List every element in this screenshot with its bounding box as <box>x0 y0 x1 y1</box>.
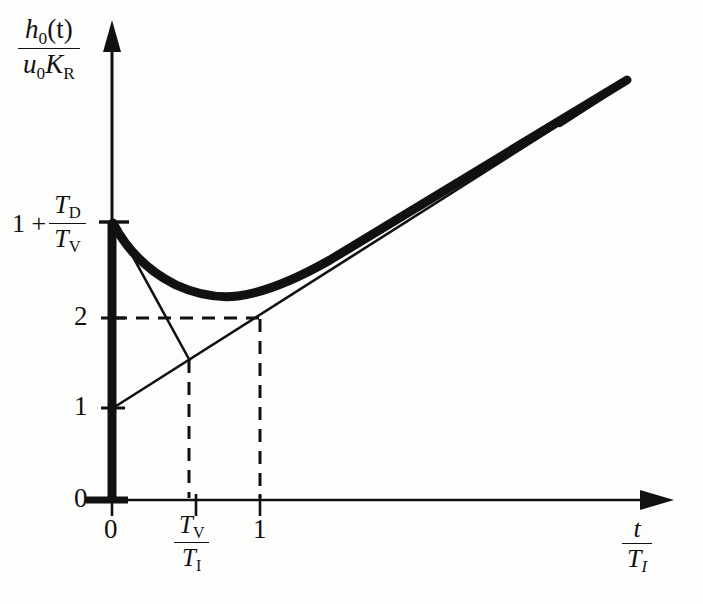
y-tick-label-top-den-T: T <box>54 224 68 253</box>
x-axis-label-numerator: t <box>622 516 652 544</box>
y-axis-label-numerator: h0(t) <box>18 16 80 49</box>
x-axis-label: t TI <box>622 516 652 576</box>
y-axis-label-h: h <box>25 14 39 44</box>
x-tick-label-tv-den-T: T <box>182 544 196 571</box>
y-tick-label-top-num-sub: D <box>69 203 81 222</box>
y-tick-label-top-leadin: 1 + <box>12 211 49 237</box>
x-axis-label-den-T: T <box>627 544 641 573</box>
y-tick-label-top-num-T: T <box>54 190 68 219</box>
y-tick-label-2: 2 <box>74 303 88 330</box>
figure-canvas: h0(t) u0KR 1 + TD TV 2 1 0 0 TV TI 1 t T… <box>0 0 703 604</box>
y-tick-label-top: 1 + TD TV <box>12 192 86 256</box>
x-axis-arrowhead <box>640 490 674 510</box>
x-tick-label-tv-den-sub: I <box>196 557 201 574</box>
y-axis-label-k: K <box>45 49 63 79</box>
y-axis-arrowhead <box>103 20 121 52</box>
y-tick-label-top-denominator: TV <box>49 224 85 256</box>
axis-lines <box>85 20 674 510</box>
x-tick-label-tv-num-T: T <box>179 511 193 538</box>
x-tick-label-tv-numerator: TV <box>174 512 209 543</box>
y-tick-label-top-numerator: TD <box>49 192 85 224</box>
x-axis-label-denominator: TI <box>622 544 652 576</box>
x-tick-label-tv-fraction: TV TI <box>174 512 209 574</box>
y-tick-label-0: 0 <box>74 485 88 512</box>
x-axis-label-den-sub: I <box>641 557 647 576</box>
x-tick-label-1: 1 <box>253 516 267 543</box>
construction-dashes <box>114 318 262 498</box>
x-axis-label-fraction: t TI <box>622 516 652 576</box>
x-tick-label-tv: TV TI <box>174 512 209 574</box>
x-tick-label-0: 0 <box>104 516 118 543</box>
y-tick-label-top-den-sub: V <box>69 237 81 256</box>
x-tick-label-tv-num-sub: V <box>193 524 205 541</box>
tick-marks <box>99 222 260 516</box>
y-axis-label: h0(t) u0KR <box>18 16 80 82</box>
y-axis-label-fraction: h0(t) u0KR <box>18 16 80 82</box>
y-axis-label-h-subscript: 0 <box>39 29 48 48</box>
y-axis-label-arg: (t) <box>47 14 72 44</box>
y-axis-label-denominator: u0KR <box>18 49 80 82</box>
step-response-curve <box>113 80 628 297</box>
y-axis-label-u: u <box>23 49 37 79</box>
y-axis-label-k-subscript: R <box>63 63 75 82</box>
step-response-path <box>113 80 627 297</box>
step-response-taper <box>560 80 628 124</box>
x-tick-label-tv-denominator: TI <box>174 543 209 574</box>
y-axis-label-u-subscript: 0 <box>37 63 46 82</box>
y-tick-label-1: 1 <box>74 393 88 420</box>
y-tick-label-top-fraction: TD TV <box>49 192 85 256</box>
